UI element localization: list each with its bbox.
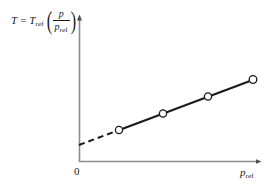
y-label-rhs-term: Tref bbox=[29, 15, 44, 26]
fraction-denominator: pref bbox=[53, 21, 70, 32]
fraction-denominator-subscript: ref bbox=[60, 26, 68, 34]
data-point-marker bbox=[204, 93, 211, 100]
origin-label: 0 bbox=[74, 165, 80, 177]
x-axis-label-symbol: p bbox=[240, 166, 246, 178]
data-line bbox=[118, 80, 254, 131]
y-label-rhs-subscript: ref bbox=[35, 20, 43, 28]
extrapolation-dashed-line bbox=[79, 130, 119, 145]
data-point-marker bbox=[115, 126, 122, 133]
data-point-marker bbox=[159, 110, 166, 117]
y-label-equals-sign: = bbox=[20, 15, 26, 26]
y-label-lhs-symbol: T bbox=[11, 15, 17, 26]
x-axis-label-subscript: ref bbox=[246, 172, 254, 180]
data-point-marker bbox=[249, 76, 257, 84]
x-axis-label: pref bbox=[240, 166, 254, 178]
y-label-fraction: p pref bbox=[53, 9, 70, 32]
chart-figure: T = Tref ( p pref ) 0 pref bbox=[0, 0, 280, 188]
y-axis-label: T = Tref ( p pref ) bbox=[11, 9, 78, 32]
fraction-numerator: p bbox=[57, 9, 66, 20]
fraction-denominator-symbol: p bbox=[55, 21, 60, 32]
